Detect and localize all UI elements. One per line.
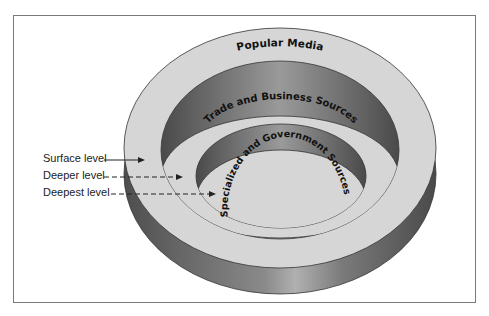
deeper-level-label: Deeper level [43,169,105,181]
surface-level-label: Surface level [43,152,107,164]
deepest-level-label: Deepest level [43,186,110,198]
